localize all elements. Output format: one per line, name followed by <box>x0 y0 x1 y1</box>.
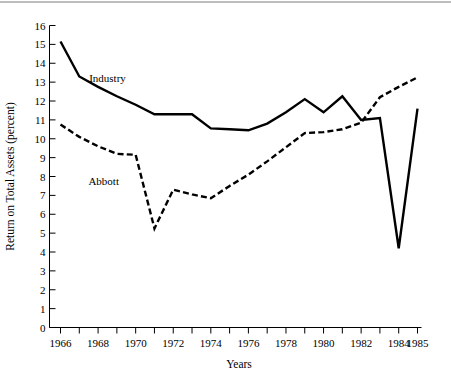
y-tick-label: 10 <box>35 133 47 145</box>
y-tick-label: 11 <box>35 114 46 126</box>
series-label-abbott: Abbott <box>88 175 119 187</box>
y-tick-label: 16 <box>35 20 47 32</box>
x-tick-label: 1985 <box>407 337 430 349</box>
y-tick-label: 0 <box>40 322 46 334</box>
y-tick-label: 5 <box>40 227 46 239</box>
x-tick-label: 1978 <box>275 337 298 349</box>
x-tick-label: 1968 <box>87 337 110 349</box>
x-tick-label: 1982 <box>350 337 372 349</box>
y-tick-label: 9 <box>40 152 46 164</box>
y-tick-label: 6 <box>40 208 46 220</box>
chart-container: 012345678910111213141516 196619681970197… <box>0 0 451 377</box>
y-tick-label: 2 <box>40 284 46 296</box>
return-on-total-assets-line-chart: 012345678910111213141516 196619681970197… <box>0 0 451 377</box>
x-tick-label: 1970 <box>125 337 148 349</box>
x-tick-label: 1980 <box>313 337 336 349</box>
x-axis-tick-labels: 1966196819701972197419761978198019821984… <box>50 337 430 349</box>
series-label-industry: Industry <box>89 72 126 84</box>
y-tick-label: 1 <box>40 303 46 315</box>
y-tick-label: 4 <box>40 246 46 258</box>
y-tick-label: 15 <box>35 38 47 50</box>
x-tick-label: 1966 <box>50 337 73 349</box>
y-axis-title: Return on Total Assets (percent) <box>4 102 17 251</box>
y-tick-label: 13 <box>35 76 47 88</box>
y-tick-label: 8 <box>40 171 46 183</box>
y-tick-label: 3 <box>40 265 46 277</box>
y-tick-label: 7 <box>40 189 46 201</box>
y-tick-label: 14 <box>35 57 47 69</box>
x-tick-label: 1972 <box>162 337 184 349</box>
x-tick-label: 1974 <box>200 337 223 349</box>
y-tick-label: 12 <box>35 95 46 107</box>
x-tick-label: 1976 <box>237 337 260 349</box>
x-axis-title: Years <box>226 358 252 370</box>
